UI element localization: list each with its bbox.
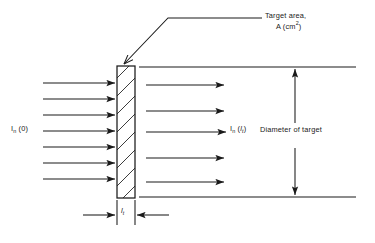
target-area-unit-suffix: ) (299, 22, 302, 31)
target-area-unit-prefix: A (cm (276, 22, 296, 31)
transmitted-intensity-label: In (lt) (230, 124, 246, 135)
target-area-unit-exponent: 2 (296, 20, 299, 26)
target-area-label: Target area, A (cm2) (265, 11, 306, 32)
target-area-line1: Target area, (265, 11, 306, 20)
thickness-label: lt (121, 206, 124, 217)
transmitted-subscript: n (232, 128, 235, 134)
diameter-label: Diameter of target (260, 125, 322, 136)
incident-beam-arrows (43, 83, 115, 179)
incident-argument: (0) (16, 124, 28, 133)
incident-subscript: n (13, 128, 16, 134)
thickness-dimension (83, 200, 169, 225)
transmitted-beam-arrows (146, 85, 226, 182)
diagram-canvas (0, 0, 375, 243)
target-area-leader-line (124, 18, 262, 64)
transmitted-argument-close: ) (244, 124, 247, 133)
target-area-line2: A (cm2) (265, 22, 306, 33)
thickness-subscript: t (123, 210, 125, 216)
neutron-attenuation-diagram: Target area, A (cm2) In (0) In (lt) Diam… (0, 0, 375, 243)
target-block (111, 54, 141, 228)
transmitted-argument-subscript: t (242, 128, 244, 134)
incident-intensity-label: In (0) (11, 124, 28, 135)
